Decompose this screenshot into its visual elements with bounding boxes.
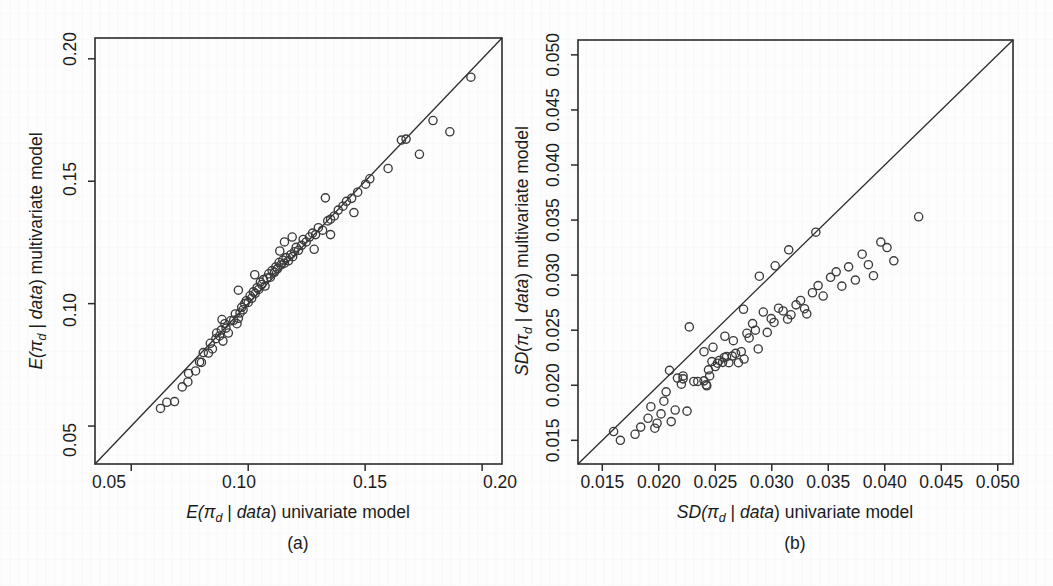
data-point bbox=[653, 419, 661, 427]
panel-a-xtick-3: 0.20 bbox=[483, 472, 517, 492]
data-point bbox=[384, 164, 392, 172]
panel-b-x-axis-title: SD(πd | data) univariate model bbox=[677, 502, 913, 525]
panel-b-ytick-5: 0.040 bbox=[543, 143, 563, 187]
data-point bbox=[288, 233, 296, 241]
panel-a-y-axis-title: E(πd | data) multivariate model bbox=[26, 132, 49, 369]
panel-a-xtick-0: 0.05 bbox=[92, 472, 126, 492]
data-point bbox=[163, 398, 171, 406]
data-point bbox=[851, 276, 859, 284]
panel-b-y-tickmarks bbox=[571, 55, 578, 440]
data-point bbox=[677, 380, 685, 388]
data-point bbox=[685, 323, 693, 331]
data-point bbox=[637, 423, 645, 431]
panel-b-ytick-3: 0.030 bbox=[543, 253, 563, 297]
panel-a-ytick-3: 0.20 bbox=[60, 32, 80, 66]
panel-b-xtick-0: 0.015 bbox=[580, 472, 624, 492]
data-point bbox=[662, 388, 670, 396]
panel-b-identity-line bbox=[578, 40, 1013, 464]
data-point bbox=[683, 407, 691, 415]
panel-b-xtick-1: 0.020 bbox=[637, 472, 681, 492]
data-point bbox=[326, 231, 334, 239]
data-point bbox=[755, 272, 763, 280]
data-point bbox=[869, 272, 877, 280]
data-point bbox=[415, 150, 423, 158]
panel-a-ytick-1: 0.10 bbox=[60, 293, 80, 327]
panel-b-ytick-1: 0.020 bbox=[543, 363, 563, 407]
panel-b-ytick-0: 0.015 bbox=[543, 418, 563, 462]
data-point bbox=[446, 128, 454, 136]
data-point bbox=[276, 247, 284, 255]
panel-b-x-ticklabels: 0.0150.0200.0250.0300.0350.0400.0450.050 bbox=[580, 472, 1020, 492]
data-point bbox=[350, 208, 358, 216]
panel-b-ytick-7: 0.050 bbox=[543, 33, 563, 77]
data-point bbox=[838, 282, 846, 290]
panel-b-xtick-3: 0.030 bbox=[750, 472, 794, 492]
data-point bbox=[651, 424, 659, 432]
panel-a-xtick-1: 0.10 bbox=[222, 472, 256, 492]
data-point bbox=[706, 372, 714, 380]
data-point bbox=[721, 332, 729, 340]
data-point bbox=[280, 238, 288, 246]
data-point bbox=[800, 305, 808, 313]
panel-b-ytick-4: 0.035 bbox=[543, 198, 563, 242]
data-point bbox=[771, 262, 779, 270]
panel-b-x-tickmarks bbox=[602, 464, 997, 471]
data-point bbox=[467, 73, 475, 81]
data-point bbox=[224, 329, 232, 337]
data-point bbox=[759, 308, 767, 316]
panel-b-y-ticklabels: 0.0150.0200.0250.0300.0350.0400.0450.050 bbox=[543, 33, 563, 463]
panel-b-ytick-2: 0.025 bbox=[543, 308, 563, 352]
data-point bbox=[700, 348, 708, 356]
data-point bbox=[184, 378, 192, 386]
data-point bbox=[310, 245, 318, 253]
data-point bbox=[729, 337, 737, 345]
panel-a-xtick-2: 0.15 bbox=[353, 472, 387, 492]
panel-b-data-points bbox=[609, 213, 922, 445]
panel-a: 0.05 0.10 0.15 0.20 0.05 0.10 0.15 0.20 … bbox=[26, 32, 517, 553]
data-point bbox=[234, 286, 242, 294]
data-point bbox=[832, 268, 840, 276]
data-point bbox=[754, 345, 762, 353]
data-point bbox=[858, 250, 866, 258]
panel-b-label: (b) bbox=[784, 533, 805, 553]
data-point bbox=[739, 305, 747, 313]
data-point bbox=[819, 292, 827, 300]
data-point bbox=[191, 367, 199, 375]
panel-b-xtick-5: 0.040 bbox=[863, 472, 907, 492]
data-point bbox=[808, 289, 816, 297]
data-point bbox=[845, 263, 853, 271]
data-point bbox=[631, 430, 639, 438]
data-point bbox=[890, 257, 898, 265]
data-point bbox=[429, 116, 437, 124]
data-point bbox=[251, 271, 259, 279]
data-point bbox=[647, 403, 655, 411]
panel-b-y-axis-title: SD(πd | data) multivariate model bbox=[512, 126, 535, 376]
data-point bbox=[814, 281, 822, 289]
panel-b: 0.0150.0200.0250.0300.0350.0400.0450.050… bbox=[512, 33, 1020, 553]
data-point bbox=[665, 366, 673, 374]
data-point bbox=[178, 383, 186, 391]
panel-b-xtick-7: 0.050 bbox=[976, 472, 1020, 492]
panel-a-ytick-2: 0.15 bbox=[60, 162, 80, 196]
panel-a-y-tickmarks bbox=[88, 59, 95, 426]
data-point bbox=[864, 261, 872, 269]
data-point bbox=[657, 410, 665, 418]
data-point bbox=[616, 436, 624, 444]
data-point bbox=[763, 328, 771, 336]
data-point bbox=[915, 213, 923, 221]
data-point bbox=[321, 194, 329, 202]
panel-b-xtick-6: 0.045 bbox=[919, 472, 963, 492]
data-point bbox=[671, 406, 679, 414]
data-point bbox=[709, 343, 717, 351]
panel-a-x-ticklabels: 0.05 0.10 0.15 0.20 bbox=[92, 472, 517, 492]
panel-a-label: (a) bbox=[287, 533, 308, 553]
panel-b-xtick-2: 0.025 bbox=[693, 472, 737, 492]
panel-b-ytick-6: 0.045 bbox=[543, 88, 563, 132]
panel-a-x-tickmarks bbox=[131, 464, 482, 471]
data-point bbox=[170, 397, 178, 405]
data-point bbox=[660, 397, 668, 405]
data-point bbox=[644, 414, 652, 422]
panel-a-y-ticklabels: 0.05 0.10 0.15 0.20 bbox=[60, 32, 80, 457]
data-point bbox=[803, 310, 811, 318]
data-point bbox=[883, 243, 891, 251]
